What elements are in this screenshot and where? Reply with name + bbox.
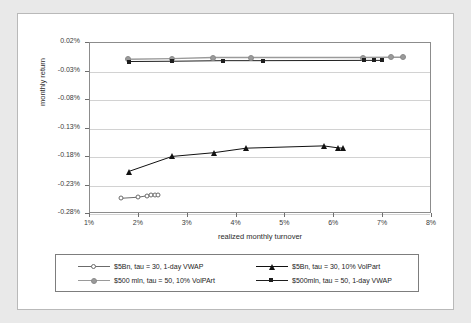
x-axis-tick-label: 2% — [123, 219, 153, 226]
x-axis-tick-label: 5% — [269, 219, 299, 226]
data-point — [248, 55, 254, 61]
figure-root: monthly return 0.02%-0.03%-0.08%-0.13%-0… — [0, 0, 471, 323]
x-axis-tick-mark — [284, 213, 285, 217]
gridline-horizontal — [90, 72, 430, 73]
legend-item-label: $500 mln, tau = 50, 10% VolPArt — [114, 277, 215, 284]
legend-item[interactable]: $5Bn, tau = 30, 10% VolPart — [256, 262, 380, 271]
data-point — [372, 58, 376, 62]
series-line — [121, 195, 159, 198]
data-point — [210, 55, 216, 61]
data-point — [118, 196, 123, 201]
gridline-horizontal — [90, 100, 430, 101]
data-series-layer — [90, 43, 430, 212]
y-axis-tick-mark — [85, 128, 89, 129]
chart-panel: monthly return 0.02%-0.03%-0.08%-0.13%-0… — [17, 13, 454, 310]
legend-item-label: $5Bn, tau = 30, 1-day VWAP — [114, 263, 203, 270]
data-point — [136, 195, 141, 200]
legend-marker-icon — [78, 276, 110, 285]
data-point — [221, 59, 225, 63]
x-axis-tick-label: 3% — [172, 219, 202, 226]
gridlines — [90, 43, 430, 212]
series-line — [129, 146, 343, 172]
data-point — [145, 193, 150, 198]
data-point — [127, 60, 131, 64]
y-axis-tick-mark — [85, 42, 89, 43]
data-point — [169, 153, 175, 159]
data-point — [243, 145, 249, 151]
plot-area — [89, 42, 431, 213]
data-point — [156, 192, 161, 197]
data-point — [170, 59, 174, 63]
x-axis-tick-mark — [236, 213, 237, 217]
legend-item[interactable]: $500 mln, tau = 50, 10% VolPArt — [78, 276, 215, 285]
data-point — [362, 58, 366, 62]
y-axis-tick-mark — [85, 185, 89, 186]
legend-item[interactable]: $500mln, tau = 50, 1-day VWAP — [256, 276, 392, 285]
x-axis-title: realized monthly turnover — [89, 232, 431, 241]
data-point — [388, 54, 394, 60]
y-axis-tick-label: -0.28% — [58, 208, 80, 215]
gridline-horizontal — [90, 157, 430, 158]
gridline-horizontal — [90, 129, 430, 130]
gridline-horizontal — [90, 214, 430, 215]
data-point — [321, 143, 327, 149]
data-point — [340, 145, 346, 151]
data-point — [261, 59, 265, 63]
data-point — [169, 56, 175, 62]
y-axis-tick-label: -0.13% — [58, 123, 80, 130]
legend-marker-icon — [256, 262, 288, 271]
y-axis-tick-mark — [85, 156, 89, 157]
data-point — [360, 55, 366, 61]
data-point — [400, 54, 406, 60]
y-axis-tick-mark — [85, 99, 89, 100]
legend-item-label: $5Bn, tau = 30, 10% VolPart — [292, 263, 380, 270]
data-point — [149, 193, 154, 198]
data-point — [126, 169, 132, 175]
gridline-horizontal — [90, 186, 430, 187]
x-axis-tick-mark — [382, 213, 383, 217]
y-axis-tick-label: -0.23% — [58, 180, 80, 187]
x-axis-tick-label: 1% — [74, 219, 104, 226]
y-axis-tick-label: -0.18% — [58, 151, 80, 158]
x-axis-tick-mark — [431, 213, 432, 217]
y-axis-tick-label: -0.03% — [58, 66, 80, 73]
x-axis-tick-label: 4% — [221, 219, 251, 226]
legend-marker-icon — [256, 276, 288, 285]
series-line — [128, 57, 403, 59]
x-axis-tick-mark — [89, 213, 90, 217]
x-axis-tick-mark — [333, 213, 334, 217]
x-axis-tick-label: 7% — [367, 219, 397, 226]
legend-marker-icon — [78, 262, 110, 271]
data-point — [211, 150, 217, 156]
x-axis-tick-mark — [138, 213, 139, 217]
data-point — [152, 193, 157, 198]
legend-item-label: $500mln, tau = 50, 1-day VWAP — [292, 277, 392, 284]
data-point — [125, 56, 131, 62]
y-axis-tick-mark — [85, 71, 89, 72]
data-point — [380, 58, 384, 62]
legend: $5Bn, tau = 30, 1-day VWAP$5Bn, tau = 30… — [55, 254, 419, 292]
x-axis-tick-label: 8% — [416, 219, 446, 226]
y-axis-tick-label: 0.02% — [60, 37, 80, 44]
x-axis-tick-label: 6% — [318, 219, 348, 226]
data-point — [335, 145, 341, 151]
y-axis-tick-label: -0.08% — [58, 94, 80, 101]
x-axis-tick-mark — [187, 213, 188, 217]
y-axis-title: monthly return — [38, 58, 47, 106]
series-line — [129, 60, 383, 61]
legend-item[interactable]: $5Bn, tau = 30, 1-day VWAP — [78, 262, 203, 271]
series-lines — [90, 43, 432, 214]
